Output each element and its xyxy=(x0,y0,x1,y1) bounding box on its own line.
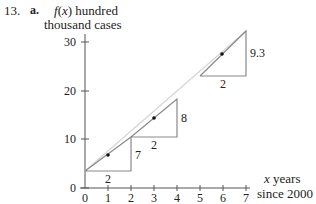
point-x6 xyxy=(220,52,224,56)
triangle-3-run-label: 2 xyxy=(220,77,226,91)
data-points xyxy=(106,52,224,157)
y-tick-20: 20 xyxy=(64,84,76,98)
x-tick-0: 0 xyxy=(82,191,88,204)
x-tick-4: 4 xyxy=(174,191,180,204)
x-tick-labels: 0 1 2 3 4 5 6 7 xyxy=(82,191,249,204)
triangle-1-run-label: 2 xyxy=(105,172,111,186)
triangle-3-rise-label: 9.3 xyxy=(250,46,265,60)
y-tick-0: 0 xyxy=(70,181,76,195)
triangle-2-run-label: 2 xyxy=(151,138,157,152)
x-tick-6: 6 xyxy=(220,191,226,204)
trend-line xyxy=(85,31,246,171)
point-x3 xyxy=(152,116,156,120)
triangle-2-rise-label: 8 xyxy=(181,111,187,125)
x-tick-7: 7 xyxy=(243,191,249,204)
x-tick-3: 3 xyxy=(151,191,157,204)
y-tick-10: 10 xyxy=(64,132,76,146)
y-tick-30: 30 xyxy=(64,35,76,49)
axes xyxy=(80,34,250,188)
x-tick-1: 1 xyxy=(105,191,111,204)
y-tick-labels: 0 10 20 30 xyxy=(64,35,76,195)
point-x1 xyxy=(106,153,110,157)
triangle-1-rise-label: 7 xyxy=(135,148,141,162)
x-tick-2: 2 xyxy=(128,191,134,204)
x-tick-5: 5 xyxy=(197,191,203,204)
chart-plot: 0 10 20 30 0 1 2 3 4 5 6 7 2 7 2 8 2 9.3 xyxy=(0,0,316,204)
